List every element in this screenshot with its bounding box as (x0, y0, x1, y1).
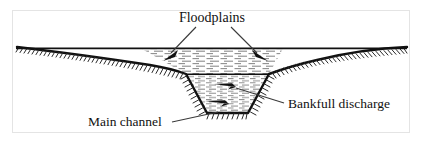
floodplains-label: Floodplains (179, 10, 245, 25)
main-channel-label: Main channel (88, 114, 162, 129)
river-cross-section-svg: Floodplains Bankfull discharge Main chan… (0, 0, 424, 143)
figure-container: Floodplains Bankfull discharge Main chan… (0, 0, 424, 143)
bankfull-discharge-label: Bankfull discharge (288, 96, 390, 111)
